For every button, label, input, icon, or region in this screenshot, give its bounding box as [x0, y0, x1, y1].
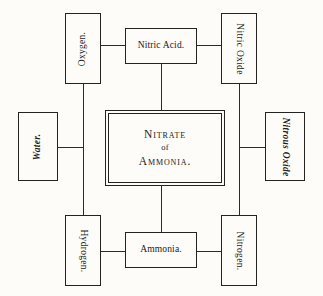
connector-water-trunk [58, 147, 84, 148]
center-line-1: Nitrate [144, 127, 186, 143]
node-nitrogen-label: Nitrogen. [234, 231, 244, 270]
node-nitric-acid-label: Nitric Acid. [138, 41, 185, 51]
node-nitrate-of-ammonia[interactable]: Nitrate of Ammonia. [105, 110, 225, 186]
node-nitrate-of-ammonia-inner: Nitrate of Ammonia. [108, 113, 222, 183]
node-nitrogen[interactable]: Nitrogen. [221, 215, 257, 286]
node-oxygen-label: Oxygen. [78, 31, 88, 66]
connector-oxygen-nitric-acid [101, 45, 125, 46]
node-oxygen[interactable]: Oxygen. [65, 13, 101, 84]
chemistry-diagram: Oxygen. Nitric Acid. Nitric Oxide Water.… [0, 0, 323, 296]
node-hydrogen[interactable]: Hydrogen. [65, 215, 101, 286]
connector-nitric-acid-center [161, 64, 162, 110]
node-nitric-acid[interactable]: Nitric Acid. [125, 28, 197, 64]
connector-oxygen-hydrogen [83, 84, 84, 215]
node-hydrogen-label: Hydrogen. [78, 229, 88, 272]
connector-hydrogen-ammonia [101, 251, 125, 252]
connector-center-ammonia [161, 186, 162, 232]
node-water-label: Water. [33, 133, 43, 160]
node-nitrous-oxide[interactable]: Nitrous Oxide [265, 112, 305, 181]
center-line-3: Ammonia. [139, 154, 192, 170]
node-nitric-oxide-label: Nitric Oxide [234, 23, 244, 74]
connector-nitric-acid-nitric-oxide [197, 45, 221, 46]
node-ammonia[interactable]: Ammonia. [125, 232, 197, 268]
connector-nitrous-oxide-trunk [239, 147, 265, 148]
center-line-2: of [161, 142, 168, 153]
connector-nitric-oxide-nitrogen [239, 84, 240, 215]
node-nitrous-oxide-label: Nitrous Oxide [280, 117, 290, 176]
node-water[interactable]: Water. [18, 112, 58, 181]
connector-ammonia-nitrogen [197, 251, 221, 252]
node-ammonia-label: Ammonia. [140, 245, 182, 255]
node-nitric-oxide[interactable]: Nitric Oxide [221, 13, 257, 84]
